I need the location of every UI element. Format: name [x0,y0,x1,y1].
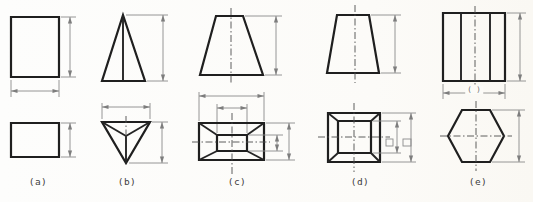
dimension-arrowhead [517,156,521,163]
front-view-square [11,17,59,77]
square-symbol-icon [386,139,393,146]
panel-label-a: (a) [29,176,48,187]
panel-c [192,8,295,174]
dimension-arrowhead [443,91,450,95]
dimension-arrowhead [68,71,72,78]
corner-edge [371,113,380,121]
dimension-arrowhead [395,147,399,154]
dimension-arrowhead [395,121,399,128]
dimension-arrowhead [68,151,72,158]
top-view-rectangle [11,123,59,157]
dimension-arrowhead [518,75,522,82]
dimension-arrowhead [393,15,397,22]
dimension-arrowhead [275,135,279,142]
dimension-arrowhead [287,123,291,130]
dimension-arrowhead [518,13,522,20]
square-symbol-icon [403,139,411,146]
technical-drawing-figure: (a) (b) (c) (d) (e) ( ) [0,0,533,202]
dimension-arrowhead [144,105,151,109]
dimension-arrowhead [241,106,248,110]
corner-edge [328,113,338,121]
dimension-arrowhead [393,67,397,74]
front-view-trapezoid [327,15,379,73]
panel-a [11,17,76,157]
dimension-arrowhead [258,94,265,98]
corner-edge [247,123,264,135]
dimension-arrowhead [409,113,413,120]
dimension-arrowhead [11,89,18,93]
panel-label-c: (c) [228,176,247,187]
dimension-arrowhead [499,91,506,95]
corner-edge [247,151,264,160]
panel-e [440,6,526,171]
front-view-rectangle [443,13,505,81]
dimension-arrowhead [102,105,109,109]
dimension-arrowhead [68,17,72,24]
dimension-arrowhead [68,123,72,130]
panel-label-d: (d) [351,176,370,187]
panel-label-b: (b) [118,176,137,187]
dimension-arrowhead [199,94,206,98]
dimension-arrowhead [287,154,291,161]
corner-edge [328,153,338,162]
dimension-arrowhead [517,110,521,117]
panel-b [102,15,168,163]
corner-edge [199,151,217,160]
panel-label-e: (e) [469,176,488,187]
drawing-canvas [0,0,533,202]
front-view-trapezoid [200,16,263,75]
dimension-arrowhead [274,69,278,76]
dimension-arrowhead [160,157,164,164]
corner-edge [371,153,380,162]
dimension-arrowhead [160,122,164,129]
reference-dimension-text: ( ) [465,86,483,94]
dimension-arrowhead [274,16,278,23]
dimension-arrowhead [409,156,413,163]
corner-edge [199,123,217,135]
dimension-arrowhead [161,75,165,82]
dimension-arrowhead [275,145,279,152]
dimension-arrowhead [217,106,224,110]
dimension-arrowhead [53,89,60,93]
panel-d [318,5,416,172]
dimension-arrowhead [161,15,165,22]
